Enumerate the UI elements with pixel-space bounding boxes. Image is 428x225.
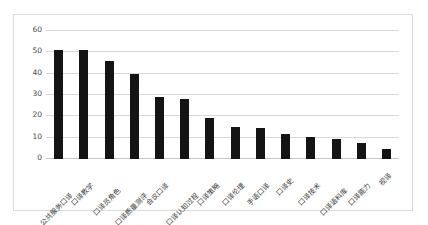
x-axis-tick-label-text: 口译伦理 xyxy=(222,183,247,208)
x-axis-label-slot: 口译技术 xyxy=(298,161,323,211)
y-axis-tick-label: 30 xyxy=(32,90,42,98)
x-axis-label-slot: 手语口译 xyxy=(248,161,273,211)
bar-slot xyxy=(96,31,121,159)
x-axis-tick-label: 视译 xyxy=(389,163,404,178)
bar-series xyxy=(46,31,399,159)
bar[interactable] xyxy=(130,74,139,159)
x-axis-tick-label-text: 口译教学 xyxy=(70,183,95,208)
x-axis-tick-label-text: 口译技术 xyxy=(297,183,322,208)
x-axis-label-slot: 口译认知过程 xyxy=(172,161,197,211)
x-axis-label-slot: 口译策略 xyxy=(197,161,222,211)
bar[interactable] xyxy=(357,143,366,159)
bar-slot xyxy=(273,31,298,159)
x-axis-tick-label-text: 视译 xyxy=(379,173,394,188)
x-axis-label-slot: 口译教学 xyxy=(71,161,96,211)
y-axis-tick-label: 10 xyxy=(32,133,42,141)
x-axis-label-slot: 口译语料库 xyxy=(323,161,348,211)
x-axis-tick-label-text: 手语口译 xyxy=(247,183,272,208)
x-axis-label-slot: 视译 xyxy=(374,161,399,211)
bar[interactable] xyxy=(155,97,164,159)
bar[interactable] xyxy=(205,118,214,159)
bar[interactable] xyxy=(256,128,265,159)
bar-slot xyxy=(147,31,172,159)
bar-slot xyxy=(71,31,96,159)
bar[interactable] xyxy=(281,134,290,159)
x-axis-label-slot: 口译能力 xyxy=(349,161,374,211)
x-axis-tick-label-text: 口译史 xyxy=(275,178,295,198)
x-axis-labels: 公共服务口译口译教学口译员角色口译质量测评会议口译口译认知过程口译策略口译伦理手… xyxy=(46,161,399,211)
bar-slot xyxy=(223,31,248,159)
bar-slot xyxy=(122,31,147,159)
bar-slot xyxy=(46,31,71,159)
x-axis-label-slot: 口译质量测评 xyxy=(122,161,147,211)
x-axis-label-slot: 会议口译 xyxy=(147,161,172,211)
bar[interactable] xyxy=(382,149,391,159)
bar-slot xyxy=(323,31,348,159)
x-axis-tick-label-text: 公共服务口译 xyxy=(39,193,74,225)
x-axis-tick-label-text: 口译员角色 xyxy=(93,188,123,218)
bar[interactable] xyxy=(180,99,189,159)
x-axis-label-slot: 口译员角色 xyxy=(96,161,121,211)
bar[interactable] xyxy=(332,139,341,159)
bar-slot xyxy=(172,31,197,159)
bar-slot xyxy=(248,31,273,159)
bar[interactable] xyxy=(79,50,88,159)
bar-slot xyxy=(349,31,374,159)
plot-area: 6050403020100 xyxy=(46,31,399,159)
x-axis-label-slot: 口译史 xyxy=(273,161,298,211)
y-axis-tick-label: 20 xyxy=(32,112,42,120)
x-axis-label-slot: 口译伦理 xyxy=(223,161,248,211)
bar-slot xyxy=(197,31,222,159)
x-axis-tick-label-text: 会议口译 xyxy=(146,183,171,208)
bar[interactable] xyxy=(54,50,63,159)
y-axis-tick-label: 50 xyxy=(32,48,42,56)
x-axis-label-slot: 公共服务口译 xyxy=(46,161,71,211)
bar-slot xyxy=(374,31,399,159)
bar[interactable] xyxy=(306,137,315,159)
x-axis-tick-label-text: 口译策略 xyxy=(196,183,221,208)
x-axis-tick-label-text: 口译能力 xyxy=(348,183,373,208)
y-axis-tick-label: 60 xyxy=(32,26,42,34)
bar-chart: 6050403020100 公共服务口译口译教学口译员角色口译质量测评会议口译口… xyxy=(13,14,413,211)
y-axis-tick-label: 0 xyxy=(37,154,42,162)
x-axis-tick-label-text: 口译语料库 xyxy=(320,188,350,218)
cropped-header-strip xyxy=(0,0,428,13)
bar[interactable] xyxy=(105,61,114,159)
bar-slot xyxy=(298,31,323,159)
y-axis-tick-label: 40 xyxy=(32,69,42,77)
bar[interactable] xyxy=(231,127,240,159)
